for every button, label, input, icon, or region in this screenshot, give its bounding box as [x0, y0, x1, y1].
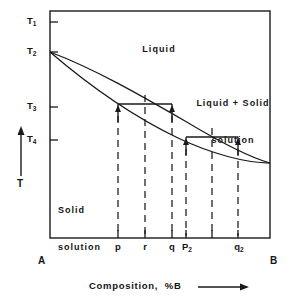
x-axis-endpoint-label-B: B	[270, 256, 277, 267]
y-tick-label-T4: T4	[27, 134, 36, 144]
x-axis-endpoint-label-A: A	[38, 256, 45, 267]
region-label-liquid: Liquid	[129, 45, 189, 54]
composition-axis-arrow-icon	[198, 284, 249, 291]
region-label-liquid-plus-solid-solution: Liquid + Solid solution	[179, 73, 287, 170]
y-tick-label-T3: T3	[27, 101, 36, 111]
y-tick-label-T1: T1	[27, 16, 36, 26]
temperature-axis-arrow-icon	[18, 126, 25, 176]
x-tick-label-p2: P2	[176, 242, 198, 252]
x-tick-label-q2: q2	[228, 242, 250, 252]
region-label-line1: Solid	[58, 204, 120, 216]
region-label-line2: solution	[179, 134, 287, 146]
x-tick-label-r: r	[135, 242, 155, 252]
y-tick-label-T2: T2	[27, 46, 36, 56]
region-label-line1: Liquid + Solid	[179, 97, 287, 109]
phase-diagram-figure: T1 T2 T3 T4 Liquid Liquid + Solid soluti…	[0, 0, 304, 303]
x-axis-title: Composition, %B	[89, 281, 181, 291]
x-tick-label-p: p	[108, 242, 128, 252]
y-axis-title: T	[17, 179, 23, 190]
region-label-solid-solution: Solid solution	[58, 180, 120, 277]
